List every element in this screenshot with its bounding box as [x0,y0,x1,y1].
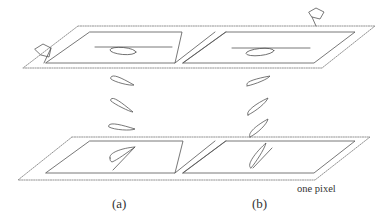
top-divider-right [183,32,226,63]
bottom-divider-right [183,141,226,173]
falling-shapes-b [247,76,270,137]
falling-leaf [111,76,134,85]
panel-label-b: (b) [252,196,267,212]
falling-shapes-a [109,76,135,130]
top-plane [23,26,375,68]
one-pixel-annotation: one pixel [297,183,336,194]
falling-leaf [249,119,268,137]
bottom-leaf-b [249,143,266,168]
falling-leaf [247,98,268,115]
top-panel-b-ellipse [246,47,275,57]
falling-leaf [247,76,270,86]
bottom-leaf-a-stem [113,147,135,170]
panel-label-a: (a) [112,196,126,212]
bottom-plane [18,137,370,180]
flag-icon [309,8,324,26]
flag-icon [35,44,51,63]
bottom-divider-left [175,141,215,173]
falling-leaf [109,124,135,130]
bottom-plane-outer-border [18,137,370,180]
falling-leaf [111,98,133,112]
top-panel-a-ellipse [110,46,137,55]
